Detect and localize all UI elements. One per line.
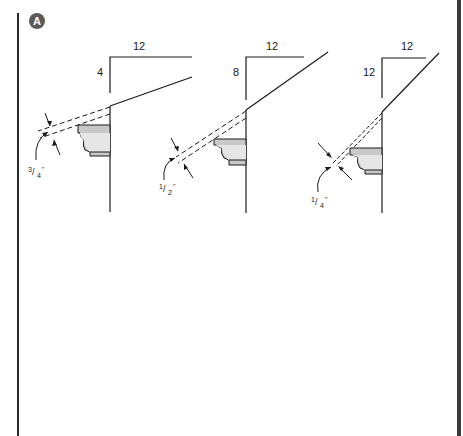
roof-pitch-diagrams: 12 4 3 / <box>0 0 463 436</box>
pitch-indicator <box>382 58 426 98</box>
panel-pitch-4-12: 12 4 3 / <box>28 40 192 212</box>
svg-text:2: 2 <box>168 189 172 196</box>
crown-molding <box>214 139 246 165</box>
gap-fraction-label: 1 / 4 " <box>311 196 328 209</box>
rise-label: 4 <box>97 66 103 78</box>
roof-line <box>246 52 328 110</box>
figure-page: A 12 4 <box>0 0 463 436</box>
roof-line <box>110 77 192 106</box>
run-label: 12 <box>266 40 278 52</box>
crown-molding <box>78 125 110 156</box>
panel-pitch-12-12: 12 12 1 / 4 " <box>311 40 439 213</box>
svg-text:": " <box>173 183 176 190</box>
run-label: 12 <box>401 40 413 52</box>
svg-text:4: 4 <box>320 202 324 209</box>
panel-pitch-8-12: 12 8 1 / 2 " <box>159 40 328 213</box>
gap-fraction-label: 1 / 2 " <box>159 183 176 196</box>
rise-label: 8 <box>233 66 239 78</box>
svg-text:/: / <box>32 167 35 177</box>
arrowhead-icon <box>338 166 344 171</box>
run-label: 12 <box>133 40 145 52</box>
rise-label: 12 <box>363 66 375 78</box>
arrowhead-icon <box>52 140 57 146</box>
pitch-indicator <box>246 57 304 100</box>
svg-text:/: / <box>315 197 318 207</box>
leader-line <box>164 158 175 180</box>
leader-line <box>318 167 331 192</box>
svg-text:": " <box>325 196 328 203</box>
svg-text:": " <box>42 166 45 173</box>
svg-text:4: 4 <box>37 172 41 179</box>
crown-molding <box>350 148 382 174</box>
roof-line <box>382 53 439 112</box>
arrowhead-icon <box>174 146 179 151</box>
svg-text:/: / <box>163 184 166 194</box>
gap-fraction-label: 3 / 4 " <box>28 166 45 179</box>
pitch-indicator <box>110 57 192 93</box>
